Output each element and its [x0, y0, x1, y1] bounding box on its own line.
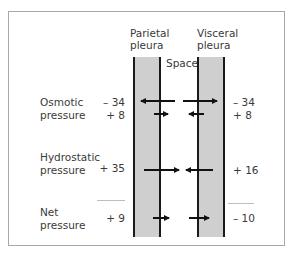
pressure-arrows	[0, 0, 292, 256]
